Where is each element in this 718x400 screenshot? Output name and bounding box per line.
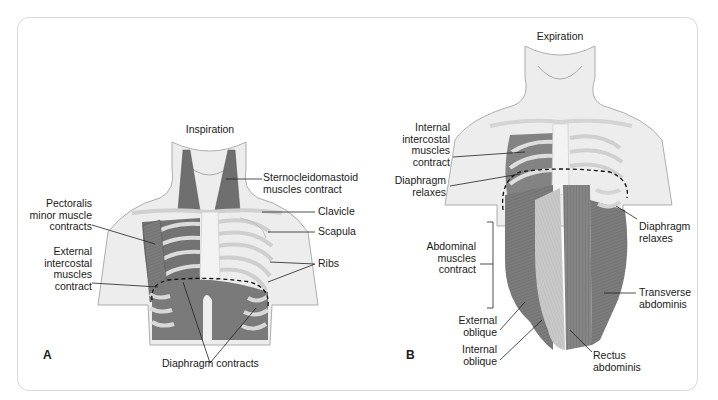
label-pectoralis-minor: Pectoralis minor muscle contracts xyxy=(20,198,92,233)
panel-a-title: Inspiration xyxy=(170,124,250,136)
label-clavicle: Clavicle xyxy=(318,206,355,218)
label-internal-intercostal: Internal intercostal muscles contract xyxy=(380,122,450,168)
label-abdominal-muscles: Abdominal muscles contract xyxy=(400,241,476,276)
panel-b-figure xyxy=(445,46,672,360)
label-diaphragm-relaxes-right: Diaphragm relaxes xyxy=(639,221,690,244)
panel-letter-a: A xyxy=(43,348,52,362)
label-internal-oblique: Internal oblique xyxy=(420,344,497,367)
anatomy-illustration xyxy=(0,0,718,400)
label-transverse-abdominis: Transverse abdominis xyxy=(639,287,691,310)
label-sternocleidomastoid: Sternocleidomastoid muscles contract xyxy=(263,172,358,195)
label-diaphragm-contracts: Diaphragm contracts xyxy=(162,358,259,370)
label-scapula: Scapula xyxy=(318,226,356,238)
panel-b-title: Expiration xyxy=(530,31,590,43)
label-diaphragm-relaxes-left: Diaphragm relaxes xyxy=(380,175,446,198)
label-external-intercostal: External intercostal muscles contract xyxy=(20,246,92,292)
label-ribs: Ribs xyxy=(318,258,339,270)
label-external-oblique: External oblique xyxy=(420,315,497,338)
label-rectus-abdominis: Rectus abdominis xyxy=(593,350,641,373)
panel-letter-b: B xyxy=(406,348,415,362)
